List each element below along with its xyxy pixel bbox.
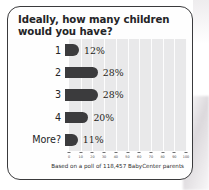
x-axis: 0102030405060708090100 [69,152,186,162]
axis-tick-label: 80 [160,155,164,159]
bar-row: 112% [8,39,193,61]
axis-tick [185,152,188,153]
bar-value-label: 20% [93,112,114,123]
bar-row: 228% [8,61,193,83]
axis-tick [149,152,152,153]
bar-value-label: 12% [84,45,105,56]
axis-tick [173,152,176,153]
axis-tick-label: 100 [183,155,189,159]
paper-smudge-top [193,0,209,44]
bar-row: 420% [8,106,193,128]
axis-tick-label: 20 [90,155,94,159]
axis-tick [91,152,94,153]
category-label: 1 [8,45,65,56]
chart-card: Ideally, how many children would you hav… [7,6,193,180]
bar-value-label: 28% [103,67,124,78]
chart-plot-wrapper: 112%228%328%420%More?11% 010203040506070… [8,39,193,180]
axis-tick [68,152,71,153]
bar [65,112,88,124]
bar [65,134,78,146]
bar [65,89,98,101]
axis-tick-label: 50 [125,155,129,159]
axis-tick-label: 70 [149,155,153,159]
bar-row: More?11% [8,129,193,151]
axis-tick-label: 40 [114,155,118,159]
bar-value-label: 11% [83,134,104,145]
axis-tick [114,152,117,153]
bar-rows: 112%228%328%420%More?11% [8,39,193,151]
bar-row: 328% [8,84,193,106]
axis-tick-label: 90 [172,155,176,159]
source-note: Based on a poll of 118,457 BabyCenter pa… [8,163,190,169]
axis-tick [138,152,141,153]
chart-title: Ideally, how many children would you hav… [18,14,180,38]
axis-tick-label: 0 [68,155,70,159]
bar [65,44,79,56]
axis-tick [161,152,164,153]
category-label: 2 [8,67,65,78]
bar-value-label: 28% [103,89,124,100]
axis-tick [79,152,82,153]
axis-tick [103,152,106,153]
category-label: More? [8,134,65,145]
category-label: 4 [8,112,65,123]
axis-tick-label: 60 [137,155,141,159]
category-label: 3 [8,89,65,100]
bar [65,67,98,79]
axis-tick-label: 30 [102,155,106,159]
axis-tick-label: 10 [79,155,83,159]
axis-tick [126,152,129,153]
